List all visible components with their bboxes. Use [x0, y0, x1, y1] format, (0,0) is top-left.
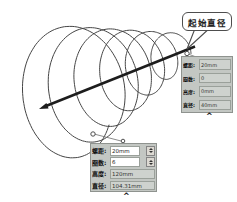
row-diameter: 直径: 104.31mm: [92, 180, 155, 192]
diameter-value: 104.31mm: [110, 181, 155, 191]
pitch-label: 螺距:: [183, 61, 198, 68]
spin-up-icon[interactable]: [149, 160, 153, 162]
row-height: 高度: 120mm: [92, 168, 155, 180]
end-point-marker: [91, 132, 95, 136]
pitch-label: 螺距:: [92, 146, 109, 155]
spin-down-icon[interactable]: [149, 151, 153, 153]
revolutions-value: 0: [199, 73, 231, 84]
height-label: 高度:: [183, 88, 198, 95]
figure-canvas: 起始直径 螺距: 20mm 圈数: 0 高度: 0mm 直径: 40mm ^ 螺…: [0, 0, 237, 202]
pitch-value: 20mm: [199, 59, 231, 70]
revolutions-spin-button[interactable]: [146, 157, 155, 167]
height-label: 高度:: [92, 169, 109, 178]
revolutions-label: 圈数:: [183, 75, 198, 82]
row-diameter: 直径: 40mm: [183, 98, 231, 111]
spin-up-icon[interactable]: [149, 148, 153, 150]
spin-down-icon[interactable]: [149, 163, 153, 165]
helix-curve: [23, 26, 192, 157]
revolutions-label: 圈数:: [92, 158, 109, 167]
callout-label: 起始直径: [188, 16, 226, 28]
diameter-value: 40mm: [199, 100, 231, 111]
row-pitch: 螺距: 20mm: [92, 145, 155, 157]
pitch-input[interactable]: 20mm: [110, 146, 140, 156]
collapse-arrow-icon[interactable]: ^: [123, 193, 130, 201]
diameter-label: 直径:: [92, 181, 109, 190]
row-height: 高度: 0mm: [183, 85, 231, 98]
height-value: 0mm: [199, 86, 231, 97]
row-revolutions: 圈数: 0: [183, 71, 231, 84]
end-point-panel: 螺距: 20mm 圈数: 6 高度: 120mm 直径: 104.31mm: [90, 143, 157, 192]
collapse-arrow-icon[interactable]: ^: [206, 113, 213, 121]
row-pitch: 螺距: 20mm: [183, 58, 231, 71]
pitch-spin-button[interactable]: [146, 146, 155, 156]
row-revolutions: 圈数: 6: [92, 157, 155, 169]
height-value: 120mm: [110, 169, 155, 179]
revolutions-input[interactable]: 6: [110, 157, 140, 167]
start-point-panel: 螺距: 20mm 圈数: 0 高度: 0mm 直径: 40mm: [181, 56, 233, 113]
diameter-label: 直径:: [183, 101, 198, 108]
callout-start-diameter: 起始直径: [182, 12, 232, 31]
